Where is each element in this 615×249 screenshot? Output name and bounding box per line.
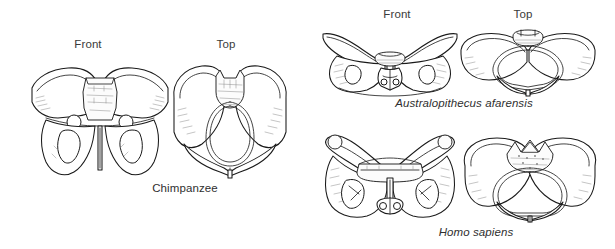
species-label-homo-sapiens: Homo sapiens <box>411 226 541 238</box>
species-label-chimpanzee: Chimpanzee <box>120 182 250 194</box>
chimpanzee-top-illustration <box>164 58 296 180</box>
australopithecus-front-view-label: Front <box>367 8 427 20</box>
australopithecus-front-illustration <box>319 24 461 96</box>
chimpanzee-front-illustration <box>24 58 176 180</box>
comparative-pelvis-figure: Front Top <box>0 0 615 249</box>
panel-chimpanzee: Front Top <box>0 0 307 249</box>
australopithecus-top-illustration <box>457 24 599 96</box>
australopithecus-top-view-label: Top <box>493 8 553 20</box>
homo-sapiens-front-illustration <box>319 132 461 224</box>
species-label-australopithecus-afarensis: Australopithecus afarensis <box>369 97 559 109</box>
chimpanzee-front-view-label: Front <box>58 38 118 50</box>
panel-homo-sapiens: Homo sapiens <box>307 120 615 249</box>
chimpanzee-top-view-label: Top <box>196 38 256 50</box>
homo-sapiens-top-illustration <box>459 132 601 224</box>
panel-australopithecus-afarensis: Front Top <box>307 0 615 120</box>
